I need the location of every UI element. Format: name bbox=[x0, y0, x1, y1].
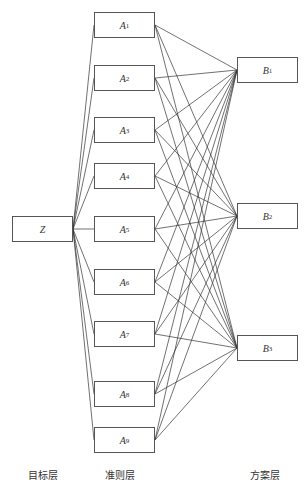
criterion-node-a4: A4 bbox=[94, 163, 155, 189]
criterion-subscript: 6 bbox=[126, 279, 130, 287]
alternative-node-b1: B1 bbox=[237, 57, 298, 83]
criteria-layer-label: 准则层 bbox=[105, 467, 135, 482]
connection-line bbox=[73, 229, 94, 334]
alternative-layer-label: 方案层 bbox=[250, 467, 280, 482]
criterion-subscript: 9 bbox=[126, 437, 130, 445]
alternative-node-b2: B2 bbox=[237, 203, 298, 229]
criterion-node-a8: A8 bbox=[94, 381, 155, 407]
goal-node-label: Z bbox=[40, 224, 46, 235]
connection-line bbox=[155, 78, 237, 216]
alternative-node-b3: B3 bbox=[237, 335, 298, 361]
criterion-node-a9: A9 bbox=[94, 427, 155, 453]
connection-line bbox=[155, 216, 237, 229]
connection-line bbox=[155, 70, 237, 229]
connection-line bbox=[155, 25, 237, 70]
criterion-subscript: 7 bbox=[126, 331, 130, 339]
criterion-subscript: 3 bbox=[126, 127, 130, 135]
criterion-subscript: 5 bbox=[126, 226, 130, 234]
criterion-subscript: 1 bbox=[126, 22, 130, 30]
criterion-node-a6: A6 bbox=[94, 269, 155, 295]
criterion-node-a7: A7 bbox=[94, 321, 155, 347]
connection-line bbox=[73, 130, 94, 229]
goal-node-z: Z bbox=[12, 216, 73, 242]
criterion-subscript: 2 bbox=[126, 75, 130, 83]
criterion-subscript: 4 bbox=[126, 173, 130, 181]
criterion-subscript: 8 bbox=[126, 391, 130, 399]
connection-line bbox=[73, 176, 94, 229]
goal-layer-label: 目标层 bbox=[28, 467, 58, 482]
connection-line bbox=[155, 70, 237, 440]
criterion-node-a1: A1 bbox=[94, 12, 155, 38]
connection-line bbox=[155, 348, 237, 394]
connection-line bbox=[155, 348, 237, 440]
connection-line bbox=[155, 176, 237, 216]
connection-line bbox=[73, 229, 94, 440]
connection-line bbox=[155, 70, 237, 176]
connection-line bbox=[73, 78, 94, 229]
connection-line bbox=[73, 229, 94, 394]
alternative-subscript: 1 bbox=[269, 67, 273, 75]
connection-line bbox=[155, 216, 237, 394]
connection-line bbox=[155, 216, 237, 334]
connection-line bbox=[73, 25, 94, 229]
criterion-node-a5: A5 bbox=[94, 216, 155, 242]
alternative-subscript: 3 bbox=[269, 345, 273, 353]
criterion-node-a2: A2 bbox=[94, 65, 155, 91]
alternative-subscript: 2 bbox=[269, 213, 273, 221]
criterion-node-a3: A3 bbox=[94, 117, 155, 143]
connection-line bbox=[155, 229, 237, 348]
ahp-hierarchy-diagram: Z A1 A2 A3 A4 A5 A6 A7 A8 A9 B1 B2 B3 目标… bbox=[0, 0, 308, 496]
